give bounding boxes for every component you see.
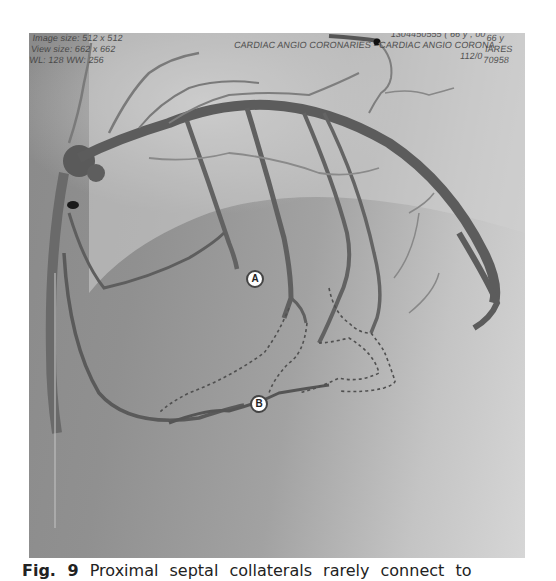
overlay-patient-id: 1304450555 ( 66 y , 00 — [235, 33, 487, 40]
caption-text: Proximal septal collaterals rarely conne… — [79, 561, 472, 580]
angiogram-image — [29, 33, 525, 558]
overlay-view-size: View size: 662 x 662 — [30, 44, 122, 55]
collateral-3 — [299, 338, 379, 393]
overlay-number: 70958 — [483, 55, 525, 66]
overlay-image-size: Image size: 512 x 512 — [32, 33, 124, 44]
overlay-study-desc: CARDIAC ANGIO CORONARIES - CARDIAC ANGIO… — [233, 40, 485, 51]
overlay-info-right: 1304450555 ( 66 y , 00 CARDIAC ANGIO COR… — [232, 33, 487, 62]
figure-number: Fig. 9 — [22, 561, 79, 580]
angiogram-figure: Image size: 512 x 512 View size: 662 x 6… — [29, 33, 525, 558]
collateral-2 — [269, 323, 307, 393]
figure-caption: Fig. 9 Proximal septal collaterals rarel… — [22, 561, 542, 581]
catheter-tip — [67, 201, 79, 209]
annotation-label-b: B — [250, 395, 268, 413]
overlay-window-level: WL: 128 WW: 256 — [29, 55, 120, 66]
vessel-bulge — [87, 164, 105, 182]
overlay-age: 66 y — [486, 33, 525, 44]
overlay-info-left: Image size: 512 x 512 View size: 662 x 6… — [29, 33, 123, 66]
overlay-date: 112/0 — [232, 51, 484, 62]
overlay-series: IARES — [484, 44, 525, 55]
collateral-4 — [339, 333, 395, 392]
annotation-label-a: A — [246, 270, 264, 288]
overlay-info-edge: 66 y IARES 70958 — [483, 33, 525, 66]
